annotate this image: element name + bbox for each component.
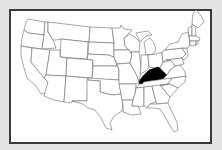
state-rhode-island <box>196 41 198 45</box>
state-connecticut <box>190 41 196 46</box>
state-wyoming <box>60 39 88 59</box>
state-arizona <box>44 75 66 102</box>
state-new-york <box>165 32 190 50</box>
state-massachusetts <box>189 36 200 41</box>
state-north-dakota <box>89 27 114 43</box>
state-iowa <box>114 50 132 64</box>
state-montana <box>48 22 90 42</box>
state-kansas <box>92 66 119 80</box>
state-arkansas <box>119 84 136 100</box>
us-map <box>0 0 222 150</box>
state-florida <box>147 103 178 132</box>
state-new-mexico <box>64 76 88 103</box>
state-colorado <box>66 58 93 78</box>
state-maine <box>192 10 204 28</box>
state-vermont <box>188 26 192 36</box>
